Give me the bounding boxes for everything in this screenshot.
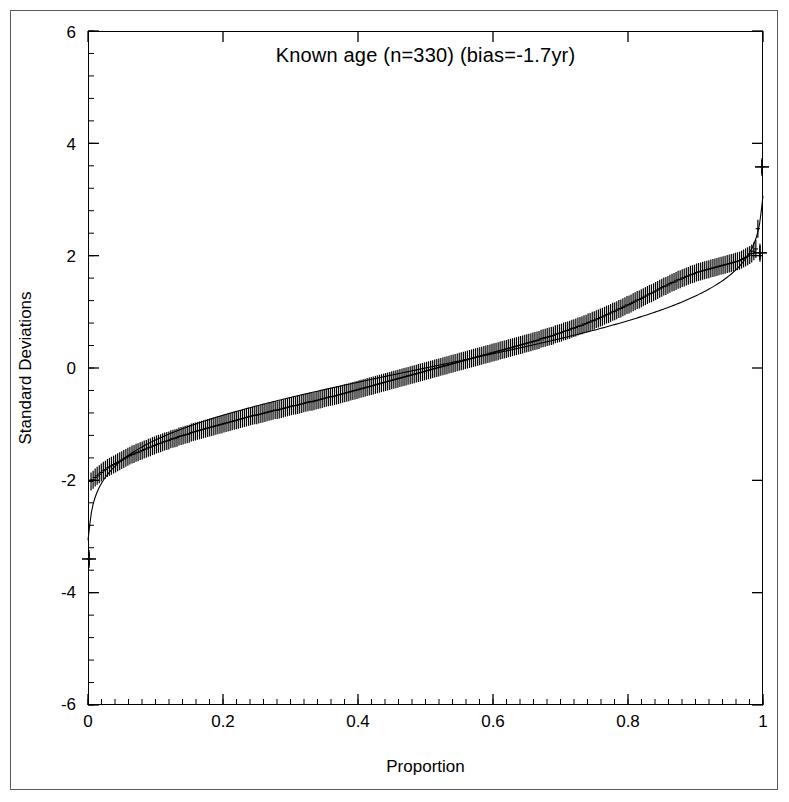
expected-normal-curve [88,196,763,541]
x-tick-label: 0.2 [193,712,253,732]
y-tick-label: 6 [28,23,76,43]
y-tick-label: -4 [28,583,76,603]
y-tick-label: 0 [28,359,76,379]
x-tick-label: 0.4 [328,712,388,732]
x-tick-label: 0.6 [463,712,523,732]
y-tick-label: 4 [28,135,76,155]
x-tick-label: 1 [733,712,789,732]
figure-container: Known age (n=330) (bias=-1.7yr) Standard… [0,0,789,802]
data-points [82,160,769,566]
x-tick-label: 0.8 [598,712,658,732]
plot-area [88,31,763,705]
y-tick-label: -2 [28,471,76,491]
data-error-bars [89,158,762,568]
x-axis-label: Proportion [88,757,763,777]
y-tick-label: 2 [28,247,76,267]
x-tick-label: 0 [58,712,118,732]
plot-canvas [88,31,763,705]
